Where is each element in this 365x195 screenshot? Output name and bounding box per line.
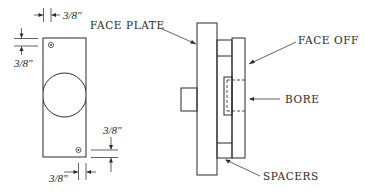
bore-insert	[224, 77, 232, 115]
side-view	[181, 23, 245, 175]
label-face-plate: FACE PLATE	[90, 19, 165, 31]
face-plate-side	[197, 23, 217, 175]
label-spacers-group: SPACERS	[225, 160, 319, 183]
shaft-stub	[181, 88, 197, 111]
bore-hidden-lines	[224, 77, 245, 115]
leader-face-plate	[160, 28, 196, 44]
dimension-right-vertical: 3/8"	[91, 124, 122, 172]
mounting-hole-bottom	[76, 147, 81, 152]
dimension-bottom-horizontal: 3/8"	[48, 163, 96, 184]
technical-drawing: 3/8" 3/8" 3/8"	[0, 0, 365, 195]
dimension-left-vertical: 3/8"	[13, 28, 38, 69]
dimension-label-left: 3/8"	[13, 57, 33, 69]
leader-spacers	[226, 160, 260, 176]
label-face-off: FACE OFF	[298, 34, 359, 46]
dimension-label-right: 3/8"	[102, 124, 122, 136]
leader-face-off	[249, 42, 296, 64]
face-plate-outline	[43, 38, 86, 157]
dimension-label-top: 3/8"	[62, 9, 82, 21]
face-off-plate	[232, 38, 245, 158]
bore-circle	[43, 73, 87, 117]
mounting-hole-top	[48, 42, 53, 47]
arrowhead-bore	[249, 97, 254, 101]
dimension-label-bottom: 3/8"	[48, 172, 68, 184]
label-face-plate-group: FACE PLATE	[90, 19, 196, 44]
label-face-off-group: FACE OFF	[249, 34, 359, 64]
label-bore: BORE	[285, 93, 320, 105]
front-view: 3/8" 3/8" 3/8"	[13, 8, 122, 184]
dimension-top-horizontal: 3/8"	[34, 8, 82, 22]
arrowhead-face-off	[249, 60, 255, 65]
arrowhead-face-plate	[190, 40, 196, 44]
label-spacers: SPACERS	[263, 170, 319, 182]
label-bore-group: BORE	[249, 93, 320, 105]
